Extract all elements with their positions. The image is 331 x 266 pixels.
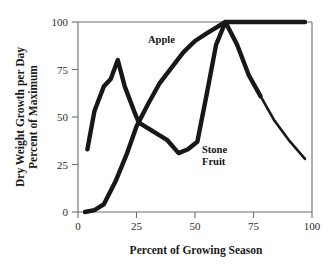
y-axis-title-line1: Dry Weight Growth per Day: [14, 47, 27, 187]
x-tick-label-0: 0: [75, 220, 81, 232]
series-label-apple: Apple: [148, 34, 175, 45]
y-tick-label-25: 25: [57, 159, 69, 171]
x-tick-label-100: 100: [304, 220, 321, 232]
x-axis-title: Percent of Growing Season: [130, 244, 263, 257]
line-chart: 0 25 50 75 100 0 25 50 75 100 Apple Ston…: [0, 0, 331, 266]
x-tick-label-25: 25: [131, 220, 143, 232]
series-label-stone-fruit-line1: Stone: [202, 144, 227, 155]
y-tick-label-75: 75: [57, 64, 69, 76]
y-tick-label-0: 0: [63, 206, 69, 218]
x-tick-label-50: 50: [190, 220, 202, 232]
y-axis-title-line2: Percent of Maximum: [27, 65, 39, 169]
y-tick-label-100: 100: [52, 16, 69, 28]
x-tick-label-75: 75: [248, 220, 260, 232]
series-label-stone-fruit-line2: Fruit: [202, 156, 226, 167]
series-line-stone-fruit: [261, 96, 305, 159]
chart-figure: 0 25 50 75 100 0 25 50 75 100 Apple Ston…: [0, 0, 331, 266]
y-tick-label-50: 50: [57, 111, 69, 123]
